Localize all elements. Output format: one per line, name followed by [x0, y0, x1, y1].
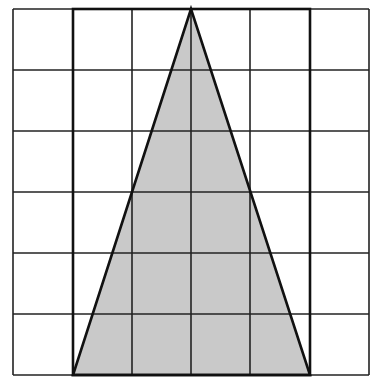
grid-diagram	[0, 0, 371, 381]
grid-lines	[13, 9, 369, 375]
